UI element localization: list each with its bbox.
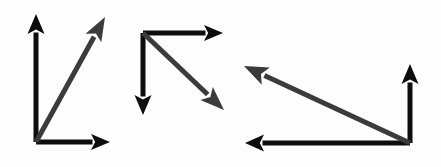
vector-diagram-figure: Three vector triangle diagrams: [0, 0, 441, 167]
vector-canvas: [0, 0, 441, 167]
